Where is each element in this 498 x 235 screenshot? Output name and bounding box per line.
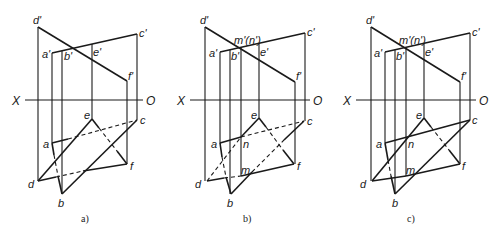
panel-b: X O d' c' a' b' e' f' m'(n') e (176, 14, 322, 225)
label-m: m (241, 164, 250, 176)
line-a-b-solid1 (385, 143, 388, 160)
line-d-prime-f-prime (38, 27, 127, 81)
label-c: c (307, 115, 313, 127)
x-axis-label: X (176, 94, 186, 108)
panel-a: X O d' c' a' b' e' f' e c a (11, 14, 155, 225)
label-f-prime: f' (461, 70, 467, 82)
x-axis-label: X (11, 94, 21, 108)
label-n: n (243, 138, 249, 150)
label-c-prime: c' (472, 26, 481, 38)
line-a-b-solid1 (52, 143, 54, 155)
label-b-prime: b' (396, 50, 405, 62)
label-f-prime: f' (296, 70, 302, 82)
o-axis-label: O (313, 94, 322, 108)
caption-a: a) (81, 213, 89, 225)
label-d-prime: d' (33, 14, 42, 26)
label-e-prime: e' (260, 46, 269, 58)
projection-diagram: X O d' c' a' b' e' f' e c a (0, 0, 498, 235)
label-e: e (251, 109, 257, 121)
line-e-f-solid1 (424, 118, 431, 127)
label-a: a (376, 138, 382, 150)
label-c-prime: c' (139, 27, 148, 39)
label-e: e (84, 109, 90, 121)
panel-c: X O d' c' a' b' e' f' m'(n') e c a n m (342, 14, 488, 225)
label-d: d (195, 178, 202, 190)
o-axis-label: O (479, 94, 488, 108)
label-d-prime: d' (200, 14, 209, 26)
o-axis-label: O (146, 94, 155, 108)
label-f-prime: f' (128, 70, 134, 82)
label-e-prime: e' (93, 46, 102, 58)
label-m: m (406, 164, 415, 176)
label-a-prime: a' (374, 47, 383, 59)
line-a-b-solid2 (58, 176, 62, 194)
line-e-f-solid2 (283, 150, 294, 164)
line-e-f-solid2 (449, 150, 460, 164)
label-f: f (297, 160, 301, 172)
label-e-prime: e' (425, 46, 434, 58)
label-m-prime-n-prime: m'(n') (399, 34, 426, 46)
label-e: e (416, 109, 422, 121)
label-a: a (43, 138, 49, 150)
line-b-c (62, 120, 137, 194)
label-b-prime: b' (231, 50, 240, 62)
line-b-c-solid2 (284, 121, 304, 140)
label-b: b (58, 197, 64, 209)
label-c: c (472, 114, 478, 126)
line-a-b-solid1 (220, 143, 222, 157)
line-d-f-dashed (56, 171, 83, 177)
label-d: d (360, 178, 367, 190)
label-b: b (227, 197, 233, 209)
caption-b: b) (243, 213, 251, 225)
line-e-f-solid2 (117, 151, 127, 164)
label-a-prime: a' (209, 47, 218, 59)
label-b: b (392, 197, 398, 209)
caption-c: c) (407, 213, 415, 225)
label-m-prime-n-prime: m'(n') (234, 34, 261, 46)
line-e-f-solid1 (259, 118, 266, 127)
label-a: a (211, 138, 217, 150)
line-a-c-solid (52, 139, 68, 143)
label-d: d (28, 178, 35, 190)
line-a-b-dashed (388, 160, 391, 176)
x-axis-label: X (342, 94, 352, 108)
line-e-f-solid1 (92, 119, 99, 128)
label-n: n (408, 138, 414, 150)
line-a-b-dashed (222, 157, 226, 177)
label-c-prime: c' (307, 26, 316, 38)
label-d-prime: d' (366, 14, 375, 26)
label-a-prime: a' (42, 48, 51, 60)
label-f: f (462, 160, 466, 172)
line-d-m (372, 176, 406, 181)
label-b-prime: b' (64, 50, 73, 62)
label-f: f (130, 160, 134, 172)
label-c: c (140, 114, 146, 126)
